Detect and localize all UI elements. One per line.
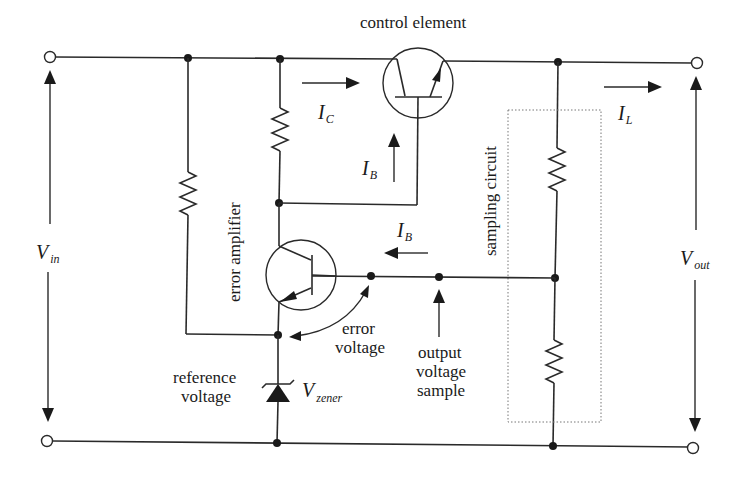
- il-label: IL: [617, 102, 633, 127]
- ib-top-label: IB: [361, 157, 378, 182]
- output-sample-label-1: output: [418, 343, 462, 362]
- ib-mid-label: IB: [396, 219, 413, 244]
- output-sample-arrow-icon: [433, 289, 445, 337]
- output-sample-label-3: sample: [417, 381, 465, 400]
- reference-voltage-label-1: reference: [173, 368, 236, 387]
- sampling-circuit-label: sampling circuit: [481, 146, 500, 256]
- il-arrow-icon: [604, 81, 662, 93]
- ic-label: IC: [317, 101, 335, 126]
- error-amplifier-label: error amplifier: [225, 202, 244, 302]
- control-element-label: control element: [360, 13, 466, 32]
- vin-negative-terminal: [42, 436, 53, 447]
- resistor-r4: [546, 274, 562, 450]
- vout-positive-terminal: [692, 58, 703, 69]
- ib-mid-arrow-icon: [384, 247, 428, 259]
- resistor-r2: [272, 55, 288, 203]
- ib-top-arrow-icon: [388, 133, 400, 182]
- vin-positive-terminal: [45, 52, 56, 63]
- q2-base-node: [367, 272, 375, 280]
- resistor-r3: [549, 58, 565, 278]
- ic-arrow-icon: [302, 77, 360, 89]
- error-voltage-label-2: voltage: [335, 338, 385, 357]
- sample-node: [435, 273, 443, 281]
- q2-error-amp-transistor: [266, 203, 336, 335]
- voltage-regulator-schematic: Vin Vout IC: [0, 0, 742, 481]
- output-sample-label-2: voltage: [416, 362, 466, 381]
- top-rail: [55, 57, 692, 63]
- vout-label: Vout: [680, 247, 710, 272]
- zener-diode: [262, 335, 294, 447]
- vout-negative-terminal: [688, 443, 699, 454]
- vzener-label: Vzener: [302, 379, 343, 405]
- error-voltage-label-1: error: [342, 319, 375, 338]
- bottom-rail: [53, 441, 689, 447]
- vin-label: Vin: [36, 241, 60, 266]
- reference-voltage-label-2: voltage: [181, 387, 231, 406]
- sample-line: [312, 276, 555, 278]
